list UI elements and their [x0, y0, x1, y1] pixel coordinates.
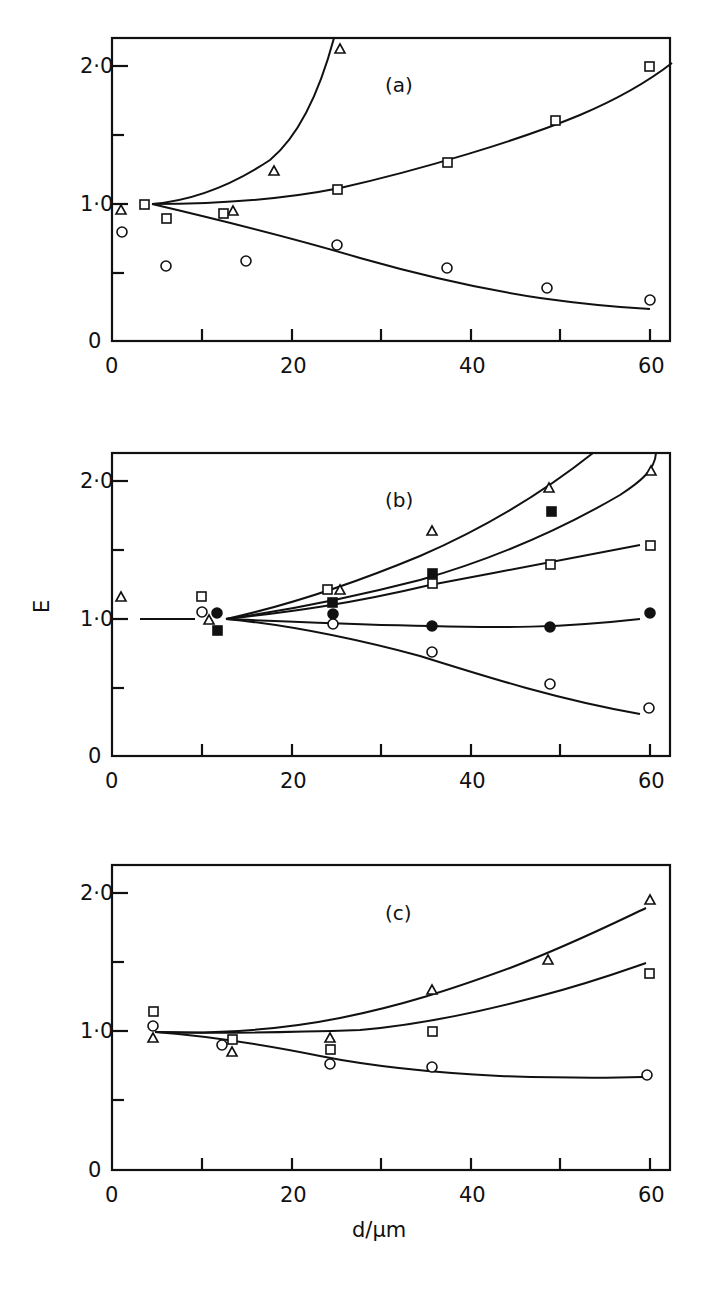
- xtick-label-20: 20: [280, 354, 307, 378]
- markers-triangle-a: [116, 44, 345, 215]
- fit-curve-triangle-b: [226, 453, 593, 619]
- x-ticks-b: [202, 744, 650, 756]
- y-ticks-a: [112, 66, 128, 273]
- xtick-label-40: 40: [459, 769, 486, 793]
- xtick-label-0: 0: [105, 354, 118, 378]
- ytick-label-1: 1·0: [80, 1019, 113, 1043]
- fit-curve-circle-a: [152, 204, 650, 309]
- panel-label-b: (b): [385, 488, 413, 512]
- fit-curve-square-c: [155, 963, 646, 1033]
- xtick-label-40: 40: [459, 1183, 486, 1207]
- panel-a: 2·0 1·0 0 0 20 40 60 (a): [80, 38, 672, 378]
- figure-canvas: 2·0 1·0 0 0 20 40 60 (a): [0, 0, 711, 1295]
- x-ticks-a: [202, 329, 650, 341]
- ytick-label-0: 0: [88, 744, 101, 768]
- ytick-label-0: 0: [88, 1158, 101, 1182]
- xtick-label-20: 20: [280, 769, 307, 793]
- markers-circle-c: [148, 1021, 652, 1080]
- markers-opensquare-b: [197, 541, 655, 601]
- ytick-label-2: 2·0: [80, 54, 113, 78]
- fit-curve-triangle-a: [152, 38, 334, 204]
- xtick-label-60: 60: [638, 769, 665, 793]
- x-ticks-c: [202, 1158, 650, 1170]
- xtick-label-60: 60: [638, 354, 665, 378]
- xtick-label-0: 0: [105, 769, 118, 793]
- fit-curve-opencircle-b: [226, 619, 640, 714]
- x-axis-label: d/μm: [352, 1218, 406, 1242]
- xtick-label-60: 60: [638, 1183, 665, 1207]
- fit-curve-triangle-c: [155, 908, 646, 1032]
- xtick-label-40: 40: [459, 354, 486, 378]
- panel-b: 2·0 1·0 0 0 20 40 60 (b) E: [30, 453, 670, 793]
- ytick-label-1: 1·0: [80, 607, 113, 631]
- ytick-label-2: 2·0: [80, 469, 113, 493]
- ytick-label-0: 0: [88, 329, 101, 353]
- y-axis-label: E: [30, 600, 54, 613]
- y-ticks-b: [112, 481, 128, 688]
- ytick-label-1: 1·0: [80, 192, 113, 216]
- panel-c: 2·0 1·0 0 0 20 40 60 (c) d/μm: [80, 865, 670, 1242]
- ytick-label-2: 2·0: [80, 881, 113, 905]
- xtick-label-0: 0: [105, 1183, 118, 1207]
- fit-curve-filledsquare-b: [226, 453, 656, 619]
- panel-label-c: (c): [385, 901, 412, 925]
- y-ticks-c: [112, 893, 128, 1100]
- xtick-label-20: 20: [280, 1183, 307, 1207]
- panel-label-a: (a): [385, 73, 413, 97]
